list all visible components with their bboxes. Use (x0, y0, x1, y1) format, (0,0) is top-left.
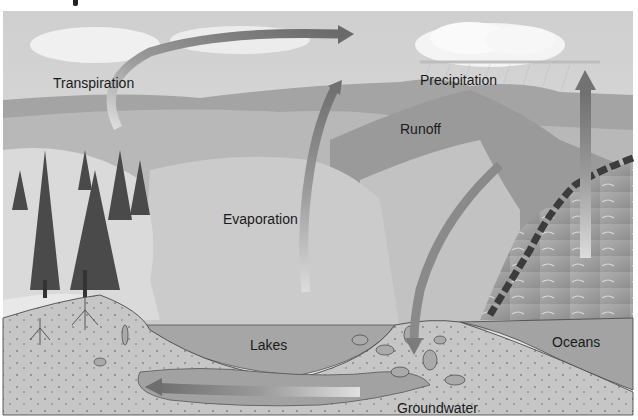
groundwater-flow-arrow (160, 388, 360, 392)
water-cycle-diagram: Transpiration Precipitation Runoff Evapo… (0, 0, 638, 420)
label-transpiration: Transpiration (53, 76, 134, 90)
clipped-heading-fragment (73, 0, 78, 6)
label-lakes: Lakes (250, 338, 287, 352)
water-cycle-illustration (0, 0, 638, 420)
ocean-evaporation-arrow (580, 90, 591, 258)
label-oceans: Oceans (552, 335, 600, 349)
label-precipitation: Precipitation (420, 73, 497, 87)
label-evaporation: Evaporation (223, 212, 298, 226)
label-runoff: Runoff (400, 122, 441, 136)
label-groundwater: Groundwater (397, 401, 478, 415)
